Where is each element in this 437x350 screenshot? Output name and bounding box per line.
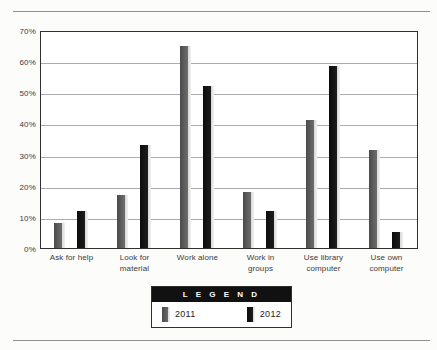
legend-swatch-icon (162, 307, 170, 322)
legend-label: 2012 (260, 309, 281, 319)
y-axis-tick-label: 10% (2, 213, 36, 222)
bar-group (104, 32, 167, 248)
x-axis-label-line: Use library (292, 253, 355, 264)
bar-highlight-edge (400, 232, 403, 248)
bar-group (167, 32, 230, 248)
bar-body (266, 211, 274, 248)
x-axis-label-5: Use owncomputer (355, 253, 418, 274)
bar-highlight-edge (148, 145, 151, 248)
bar-highlight-edge (251, 192, 254, 248)
x-axis-label-line: material (103, 264, 166, 275)
bar-2011-5 (369, 150, 380, 248)
bar-2011-3 (243, 192, 254, 248)
x-axis-label-0: Ask for help (40, 253, 103, 264)
y-axis-tick-label: 20% (2, 182, 36, 191)
bar-2012-4 (329, 66, 340, 248)
bar-highlight-edge (274, 211, 277, 248)
bar-group (41, 32, 104, 248)
legend-label: 2011 (175, 309, 196, 319)
bar-body (243, 192, 251, 248)
bar-body (117, 195, 125, 248)
y-axis-tick-label: 70% (2, 27, 36, 36)
bar-highlight-edge (85, 211, 88, 248)
bar-highlight-edge (125, 195, 128, 248)
legend-swatch-icon (247, 307, 255, 322)
legend-swatch-edge (253, 307, 255, 322)
bar-2011-2 (180, 46, 191, 248)
bar-group (293, 32, 356, 248)
x-axis-label-2: Work alone (166, 253, 229, 264)
bar-2011-0 (54, 223, 65, 248)
x-axis-label-line: Use own (355, 253, 418, 264)
bar-body (329, 66, 337, 248)
x-axis-label-line: Work alone (166, 253, 229, 264)
y-axis-tick-label: 0% (2, 245, 36, 254)
bar-2011-1 (117, 195, 128, 248)
y-axis: 70%60%50%40%30%20%10%0% (0, 31, 36, 249)
bar-body (54, 223, 62, 248)
x-axis-label-3: Work ingroups (229, 253, 292, 274)
legend-item-2011: 2011 (162, 307, 196, 322)
bar-2012-1 (140, 145, 151, 248)
chart-page: 70%60%50%40%30%20%10%0% Ask for helpLook… (0, 0, 437, 350)
bar-body (77, 211, 85, 248)
bar-highlight-edge (62, 223, 65, 248)
x-axis-label-line: Work in (229, 253, 292, 264)
plot-area (40, 31, 418, 249)
legend-title: L E G E N D (152, 287, 291, 302)
x-axis-label-line: groups (229, 264, 292, 275)
bar-highlight-edge (211, 86, 214, 248)
bar-highlight-edge (377, 150, 380, 248)
y-axis-tick-label: 40% (2, 120, 36, 129)
x-axis-label-4: Use librarycomputer (292, 253, 355, 274)
bar-2012-0 (77, 211, 88, 248)
bar-group (230, 32, 293, 248)
bar-body (392, 232, 400, 248)
bar-2012-5 (392, 232, 403, 248)
bar-2012-2 (203, 86, 214, 248)
bar-highlight-edge (188, 46, 191, 248)
x-axis-label-line: computer (355, 264, 418, 275)
bar-2011-4 (306, 120, 317, 248)
bar-highlight-edge (314, 120, 317, 248)
bar-body (203, 86, 211, 248)
legend-item-2012: 2012 (247, 307, 281, 322)
bar-2012-3 (266, 211, 277, 248)
legend-items: 20112012 (152, 302, 291, 326)
x-axis-label-line: computer (292, 264, 355, 275)
y-axis-tick-label: 50% (2, 89, 36, 98)
x-axis-label-line: Ask for help (40, 253, 103, 264)
bar-highlight-edge (337, 66, 340, 248)
y-axis-tick-label: 60% (2, 58, 36, 67)
x-axis-label-1: Look formaterial (103, 253, 166, 274)
bar-body (369, 150, 377, 248)
top-divider-rule (13, 11, 430, 12)
legend: L E G E N D 20112012 (151, 286, 292, 328)
bar-body (140, 145, 148, 248)
bar-body (306, 120, 314, 248)
bottom-divider-rule (13, 340, 430, 341)
y-axis-tick-label: 30% (2, 151, 36, 160)
legend-swatch-edge (168, 307, 170, 322)
bar-body (180, 46, 188, 248)
x-axis-label-line: Look for (103, 253, 166, 264)
bar-group (356, 32, 419, 248)
